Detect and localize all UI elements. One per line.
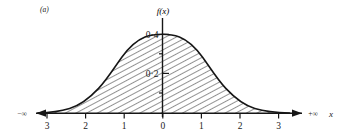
x-tick-label-minus-1: 1 [122,121,127,131]
x-tick-label-zero: 0 [160,121,165,131]
y-tick-label-0-4: 0·4 [146,30,159,40]
x-tick-label-minus-2: 2 [83,121,88,131]
x-axis-plus-infinity-label: +∞ [308,109,318,118]
x-axis-label: x [328,109,333,119]
y-tick-label-0-2: 0·2 [146,69,159,79]
x-tick-label-plus-1: 1 [199,121,204,131]
panel-label: (a) [40,5,49,14]
y-axis-label: f(x) [157,6,170,16]
x-tick-label-plus-3: 3 [276,121,281,131]
figure-container: 3 2 1 0 1 2 3 0·2 0·4 −∞ +∞ x f(x) (a) [0,0,338,139]
x-axis-minus-infinity-label: −∞ [17,109,27,118]
x-tick-label-minus-3: 3 [45,121,50,131]
x-tick-label-plus-2: 2 [238,121,243,131]
normal-distribution-figure: 3 2 1 0 1 2 3 0·2 0·4 −∞ +∞ x f(x) (a) [0,0,338,139]
